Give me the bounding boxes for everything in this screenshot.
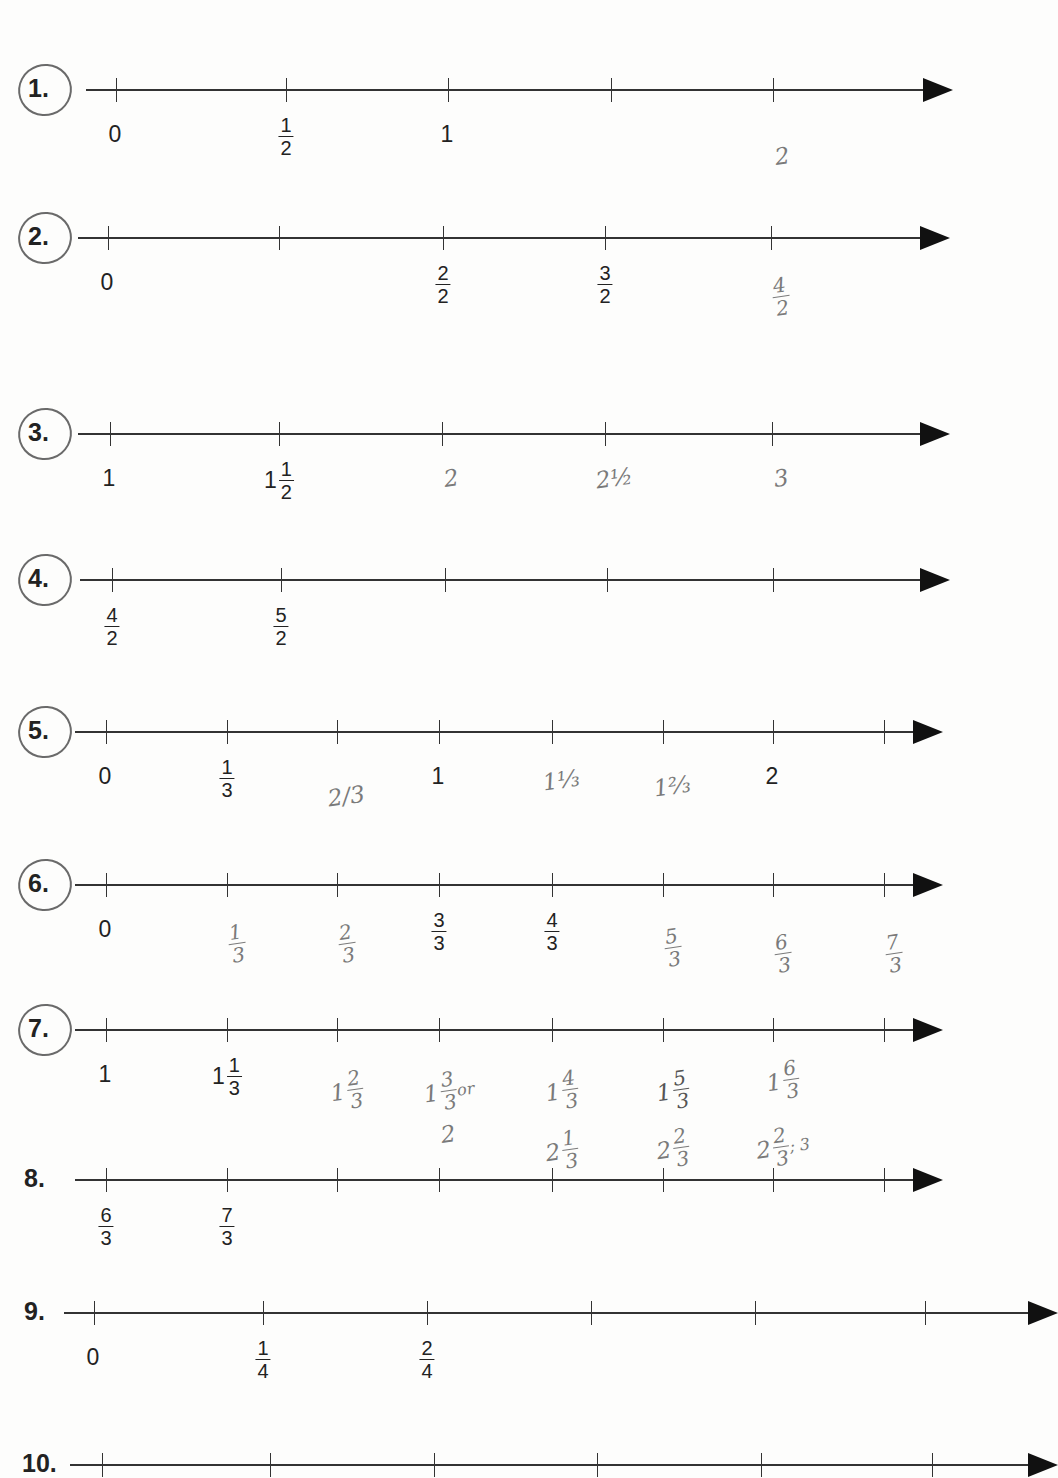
fraction: 13 [219,756,234,801]
arrowhead-icon [920,422,950,446]
arrowhead-icon [1028,1453,1058,1477]
fraction: 42 [104,604,119,649]
tick-mark [94,1301,95,1325]
printed-label: 1 [441,120,456,148]
tick-mark [337,873,338,897]
numerator: 1 [227,1054,242,1077]
numerator: 5 [273,604,288,627]
printed-label: 73 [219,1204,234,1249]
label-whole: 2½ [594,462,634,493]
label-whole: 2 [766,763,779,789]
number-line-axis [75,1029,915,1031]
tick-mark [106,1018,107,1042]
tick-mark [227,873,228,897]
handwritten-answer: 123 [327,1066,366,1115]
denominator: 2 [280,137,291,159]
denominator: 3 [546,932,557,954]
printed-label: 1 [99,1060,114,1088]
arrowhead-icon [1028,1301,1058,1325]
denominator: 2 [437,285,448,307]
tick-mark [263,1301,264,1325]
denominator: 3 [667,947,683,971]
denominator: 3 [564,1089,580,1113]
tick-mark [443,226,444,250]
hand-drawn-circle [11,57,78,123]
tick-mark [773,568,774,592]
denominator: 3 [564,1149,580,1173]
label-whole: 1 [441,121,454,147]
number-line-axis [70,1464,1030,1466]
printed-label: 113 [212,1054,242,1099]
tick-mark [773,1018,774,1042]
fraction: 13 [226,920,249,967]
number-line-axis [75,731,915,733]
denominator: 2 [599,285,610,307]
hand-drawn-circle [11,997,78,1063]
label-whole: 2 [754,1135,772,1163]
denominator: 3 [775,1146,791,1170]
tick-mark [281,568,282,592]
tick-mark [663,720,664,744]
denominator: 3 [341,943,357,967]
label-whole: 1 [99,1061,112,1087]
tick-mark [552,1018,553,1042]
handwritten-answer: 143 [542,1066,581,1115]
fraction: 13 [227,1054,242,1099]
label-whole: 0 [109,121,122,147]
tick-mark [773,720,774,744]
numerator: 2 [419,1337,434,1360]
handwritten-answer: 1⅓ [541,761,584,795]
tick-mark [663,1168,664,1192]
denominator: 3 [100,1227,111,1249]
fraction: 53 [662,924,685,971]
handwritten-answer: 223 [653,1124,692,1173]
handwritten-answer: 42 [770,273,793,320]
printed-label: 12 [278,114,293,159]
tick-mark [112,568,113,592]
handwritten-answer: 1⅔ [652,767,695,801]
label-whole: 2 [655,1136,673,1164]
tick-mark [925,1301,926,1325]
problem-number: 8. [24,1164,45,1193]
tick-mark [884,873,885,897]
handwritten-answer: 53 [662,924,685,971]
printed-label: 0 [101,268,116,296]
label-whole: 2 [439,1120,457,1148]
number-line-axis [78,237,922,239]
hand-drawn-circle [11,699,78,765]
handwritten-answer: 2 [773,139,793,170]
printed-label: 2 [766,762,781,790]
fraction: 23 [344,1066,367,1113]
printed-label: 0 [99,915,114,943]
numerator: 4 [104,604,119,627]
denominator: 2 [275,627,286,649]
tick-mark [106,720,107,744]
label-whole: 1 [544,1078,562,1106]
numerator: 3 [431,909,446,932]
fraction: 73 [883,930,906,977]
label-whole: 0 [87,1344,100,1370]
arrowhead-icon [913,873,943,897]
tick-mark [597,1453,598,1477]
fraction: 63 [780,1056,803,1103]
handwritten-answer: 133or [421,1065,477,1117]
tick-mark [884,1168,885,1192]
fraction: 14 [255,1337,270,1382]
label-whole: 0 [99,916,112,942]
fraction: 23 [336,920,359,967]
handwritten-answer: 153 [653,1066,692,1115]
tick-mark [227,1018,228,1042]
numerator: 1 [219,756,234,779]
tick-mark [448,78,449,102]
printed-label: 22 [435,262,450,307]
printed-label: 43 [544,909,559,954]
label-whole: 1 [103,465,116,491]
fraction: 33 [431,909,446,954]
denominator: 2 [106,627,117,649]
tick-mark [279,422,280,446]
denominator: 3 [442,1090,458,1114]
tick-mark [445,568,446,592]
label-whole: 1 [422,1079,440,1107]
printed-label: 63 [98,1204,113,1249]
tick-mark [761,1453,762,1477]
